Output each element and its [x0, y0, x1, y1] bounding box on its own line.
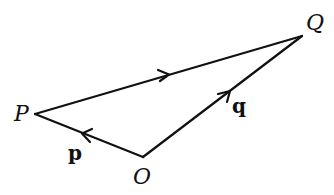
point-label-o: O: [133, 164, 151, 189]
vector-triangle-diagram: P Q O p q: [0, 0, 334, 195]
point-label-q: Q: [306, 10, 324, 35]
point-label-p: P: [13, 101, 30, 126]
vector-label-q: q: [232, 94, 246, 118]
edge-oq: [143, 36, 302, 157]
vector-label-p: p: [68, 141, 82, 165]
edge-op: [35, 114, 143, 157]
